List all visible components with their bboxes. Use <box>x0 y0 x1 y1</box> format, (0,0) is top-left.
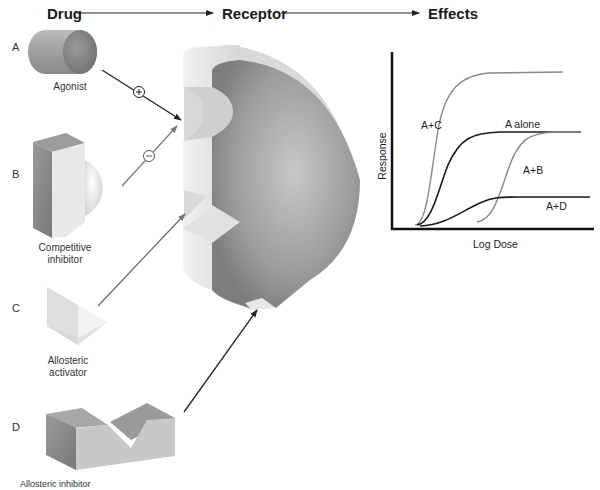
label-a-plus-b: A+B <box>523 164 543 176</box>
caption-activator-line2: activator <box>35 367 101 379</box>
chart-ylabel: Response <box>376 126 388 186</box>
allosteric-activator-arrow <box>98 214 185 306</box>
caption-allosteric-inhibitor: Allosteric inhibitor <box>20 478 120 490</box>
label-a-plus-d: A+D <box>546 200 567 212</box>
caption-competitive-inhibitor: Competitive inhibitor <box>30 242 100 266</box>
allosteric-inhibitor-block-icon <box>46 403 175 470</box>
receptor-icon <box>183 45 360 310</box>
curve-a-plus-c <box>415 72 563 225</box>
minus-sign-icon <box>144 151 155 162</box>
caption-agonist: Agonist <box>40 81 100 93</box>
plus-sign-icon <box>134 87 145 98</box>
chart-xlabel: Log Dose <box>473 238 518 250</box>
label-a-plus-c: A+C <box>421 119 442 131</box>
caption-competitive-line2: inhibitor <box>30 254 100 266</box>
caption-activator-line1: Allosteric <box>35 355 101 367</box>
allosteric-inhibitor-arrow <box>184 310 257 412</box>
row-letter-b: B <box>12 168 19 180</box>
competitive-inhibitor-block-icon <box>33 133 103 238</box>
row-letter-c: C <box>12 302 20 314</box>
agonist-cylinder-icon <box>28 30 97 74</box>
caption-competitive-line1: Competitive <box>30 242 100 254</box>
row-letter-a: A <box>12 41 19 53</box>
allosteric-activator-prism-icon <box>47 287 107 345</box>
caption-allosteric-activator: Allosteric activator <box>35 355 101 379</box>
label-a-alone: A alone <box>505 118 540 130</box>
row-letter-d: D <box>12 421 20 433</box>
